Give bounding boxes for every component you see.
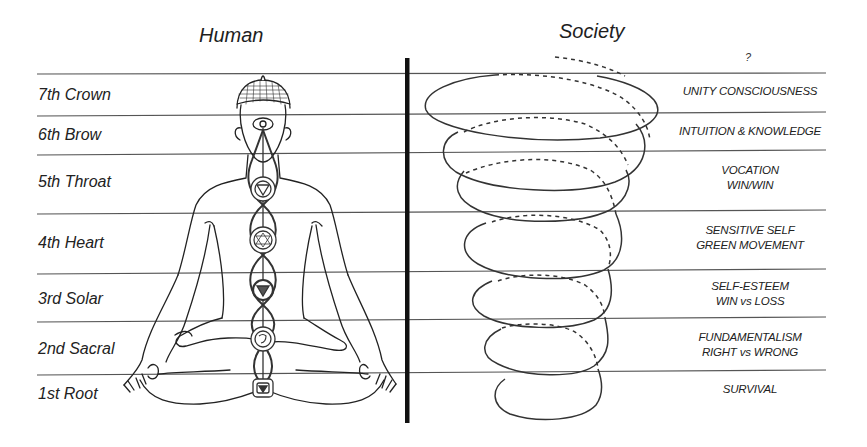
chakra-label-brow: 6th Brow [38,126,101,144]
header-society: Society [559,20,625,43]
chakra-label-crown: 7th Crown [38,86,111,104]
stage-label-unity: UNITY CONSCIOUSNESS [655,84,845,99]
stage-line: FUNDAMENTALISM [655,330,845,345]
stage-label-fundamentalism: FUNDAMENTALISM RIGHT vs WRONG [655,330,845,360]
stage-line: WIN vs LOSS [655,294,845,309]
stage-label-self-esteem: SELF-ESTEEM WIN vs LOSS [655,279,845,309]
stage-line: INTUITION & KNOWLEDGE [655,124,845,139]
stage-label-intuition: INTUITION & KNOWLEDGE [655,124,845,139]
stage-label-survival: SURVIVAL [655,382,845,397]
chakra-label-sacral: 2nd Sacral [38,340,115,358]
chakra-label-throat: 5th Throat [38,173,111,191]
top-question-mark: ? [745,51,751,63]
chakra-label-heart: 4th Heart [38,234,104,252]
stage-line: GREEN MOVEMENT [655,238,845,253]
center-divider [405,58,410,423]
chakra-column-illustration [248,128,277,397]
spiral-illustration [425,57,657,420]
stage-label-vocation: VOCATION WIN/WIN [655,163,845,193]
stage-line: SENSITIVE SELF [655,223,845,238]
chakra-label-root: 1st Root [38,385,98,403]
stage-line: RIGHT vs WRONG [655,345,845,360]
stage-label-sensitive-self: SENSITIVE SELF GREEN MOVEMENT [655,223,845,253]
stage-line: SURVIVAL [655,382,845,397]
stage-line: VOCATION [655,163,845,178]
header-human: Human [199,24,263,47]
chakra-label-solar: 3rd Solar [38,290,103,308]
stage-line: UNITY CONSCIOUSNESS [655,84,845,99]
stage-line: SELF-ESTEEM [655,279,845,294]
stage-line: WIN/WIN [655,178,845,193]
